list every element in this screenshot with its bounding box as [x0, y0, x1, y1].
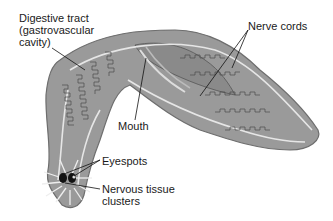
label-nervous-line2: clusters: [102, 195, 175, 207]
label-nervous-line1: Nervous tissue: [102, 183, 175, 195]
label-nerve-cords: Nerve cords: [248, 20, 307, 32]
label-digestive-tract: Digestive tract (gastrovascular cavity): [19, 12, 94, 48]
eyespot-left: [59, 173, 67, 183]
label-eyespots: Eyespots: [102, 155, 147, 167]
label-digestive-line2: (gastrovascular: [19, 24, 94, 36]
label-nervous-tissue: Nervous tissue clusters: [102, 183, 175, 207]
label-digestive-line1: Digestive tract: [19, 12, 94, 24]
label-mouth: Mouth: [118, 120, 149, 132]
label-digestive-line3: cavity): [19, 36, 94, 48]
